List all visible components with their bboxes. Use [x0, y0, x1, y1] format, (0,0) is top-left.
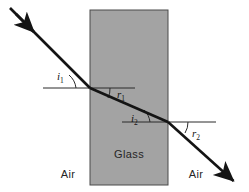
angle-subscript-i2: 2: [134, 118, 138, 127]
air-medium-label-left: Air: [61, 168, 76, 180]
angle-subscript-r2: 2: [196, 133, 200, 142]
refraction-through-glass-slab-diagram: i1 r1 i2 r2 Glass Air Air: [0, 0, 249, 192]
angle-label-i1: i1: [57, 70, 64, 85]
angle-subscript-i1: 1: [60, 76, 64, 85]
incident-ray-arrowhead: [16, 14, 34, 32]
angle-arc-i1: [69, 75, 76, 88]
glass-medium-label: Glass: [114, 148, 144, 160]
air-medium-label-right: Air: [189, 168, 204, 180]
angle-arc-r2: [185, 122, 188, 133]
diagram-canvas: i1 r1 i2 r2 Glass Air Air: [0, 0, 249, 192]
angle-subscript-r1: 1: [121, 94, 125, 103]
angle-label-r2: r2: [192, 127, 200, 142]
